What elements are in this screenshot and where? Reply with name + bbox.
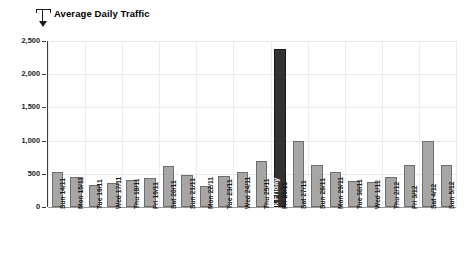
x-axis-tick-label-text: Sun 5/12 xyxy=(448,181,455,209)
y-axis-tick-label: 1,500 xyxy=(0,103,40,111)
y-axis-tick-mark xyxy=(42,41,46,42)
chart-container: Average Daily Traffic 05001,0001,5002,00… xyxy=(0,0,466,273)
x-axis-tick-label-text: Wed 1/12 xyxy=(374,180,381,209)
y-axis-tick-mark xyxy=(42,174,46,175)
callout-pointer-icon xyxy=(34,8,51,28)
y-axis-tick-label: 1,000 xyxy=(0,137,40,145)
x-axis-tick-label-text: Thu 2/12 xyxy=(393,182,400,209)
y-axis-tick-label: 500 xyxy=(0,170,40,178)
x-axis-tick-label-text: Sat 4/12 xyxy=(430,184,437,209)
y-axis-tick-label: 2,500 xyxy=(0,37,40,45)
y-axis-tick-mark xyxy=(42,107,46,108)
x-axis-tick-label-text: Sun 14/11 xyxy=(59,178,66,209)
x-axis-tick-label-text: Fri 3/12 xyxy=(411,186,418,210)
x-axis-tick-label-text: Sat 20/11 xyxy=(170,180,177,209)
x-axis-tick-label-text: Mon 29/11 xyxy=(337,177,344,209)
y-axis-tick-mark xyxy=(42,207,46,208)
x-axis-tick-label-text: Thu 25/11 xyxy=(263,178,270,209)
y-axis-tick-label: 2,000 xyxy=(0,70,40,78)
y-axis-tick-label: 0 xyxy=(0,203,40,211)
x-axis-tick-label-text: Mon 22/11 xyxy=(207,177,214,209)
chart-title: Average Daily Traffic xyxy=(54,8,150,19)
x-axis-tick-label-text: Fri 26/11 xyxy=(281,182,288,209)
gridline-x xyxy=(456,41,457,207)
x-axis-tick-label-text: Thu 18/11 xyxy=(133,178,140,209)
chart-header: Average Daily Traffic xyxy=(34,8,150,30)
x-axis-tick-label-text: Sat 27/11 xyxy=(300,180,307,209)
x-axis-tick-label-text: Fri 19/11 xyxy=(152,182,159,209)
x-axis-tick-label-text: Sun 21/11 xyxy=(189,178,196,209)
y-axis-tick-mark xyxy=(42,74,46,75)
x-axis-tick-label-text: Mon 15/11 xyxy=(77,177,84,209)
y-axis-tick-mark xyxy=(42,141,46,142)
x-axis-tick-label-text: Tue 30/11 xyxy=(356,179,363,209)
x-axis-tick-label-text: Tue 23/11 xyxy=(226,179,233,209)
x-axis-tick-label-text: Wed 24/11 xyxy=(244,177,251,209)
x-axis-tick-label-text: Tue 16/11 xyxy=(96,179,103,209)
x-axis: Sun 14/11Mon 15/11Tue 16/11Wed 17/11Thu … xyxy=(47,209,455,271)
x-axis-tick-label-text: Wed 17/11 xyxy=(115,177,122,209)
x-axis-tick-label-text: Sun 28/11 xyxy=(319,178,326,209)
